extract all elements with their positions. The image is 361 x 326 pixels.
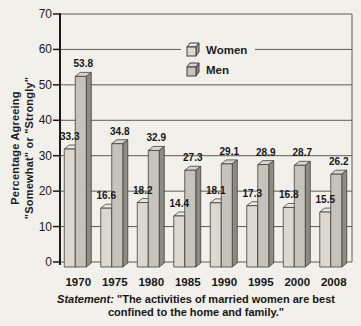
bar-women bbox=[247, 206, 258, 267]
x-category-label: 2008 bbox=[321, 276, 347, 288]
x-category-label: 1970 bbox=[65, 276, 91, 288]
chart-legend: Women Men bbox=[181, 40, 255, 79]
x-category-label: 1990 bbox=[211, 276, 237, 288]
value-label-men: 28.7 bbox=[293, 147, 312, 158]
y-tick-label: 70 bbox=[28, 7, 52, 21]
bar-women bbox=[174, 216, 185, 267]
bar-men bbox=[112, 144, 123, 267]
bar-women bbox=[137, 203, 148, 267]
value-label-men: 27.3 bbox=[183, 152, 202, 163]
bar-side-men bbox=[123, 140, 128, 267]
y-tick-label: 60 bbox=[28, 42, 52, 56]
bar-men bbox=[221, 164, 232, 267]
legend-label-women: Women bbox=[206, 44, 247, 56]
y-tick-label: 40 bbox=[28, 113, 52, 127]
y-tick-label: 0 bbox=[28, 255, 52, 269]
bar-side-men bbox=[342, 170, 347, 267]
y-axis-title-line1: Percentage Agreeing bbox=[8, 48, 22, 248]
legend-label-men: Men bbox=[206, 64, 229, 76]
statement-caption: Statement: "The activities of married wo… bbox=[40, 293, 352, 319]
value-label-women: 33.3 bbox=[60, 131, 79, 142]
value-label-men: 34.8 bbox=[110, 126, 129, 137]
y-tick-label: 30 bbox=[28, 149, 52, 163]
bar-side-men bbox=[232, 160, 237, 267]
bar-side-men bbox=[196, 166, 201, 267]
x-category-label: 1995 bbox=[248, 276, 274, 288]
bar-women bbox=[283, 207, 294, 267]
value-label-men: 29.1 bbox=[220, 146, 239, 157]
bar-men bbox=[185, 170, 196, 267]
value-label-women: 14.4 bbox=[170, 198, 189, 209]
statement-caption-label: Statement: bbox=[57, 293, 114, 305]
legend-item-women: Women bbox=[185, 42, 247, 57]
bar-women bbox=[320, 212, 331, 267]
y-tick-label: 50 bbox=[28, 78, 52, 92]
cube-icon-women bbox=[185, 42, 200, 57]
y-tick-label: 20 bbox=[28, 184, 52, 198]
bar-side-men bbox=[269, 161, 274, 267]
bar-men bbox=[294, 165, 305, 267]
bar-side-men bbox=[86, 72, 91, 267]
bar-women bbox=[210, 203, 221, 267]
x-category-label: 1980 bbox=[138, 276, 164, 288]
value-label-men: 53.8 bbox=[74, 58, 93, 69]
bar-men bbox=[75, 76, 86, 267]
bar-men bbox=[331, 174, 342, 267]
value-label-men: 28.9 bbox=[256, 147, 275, 158]
x-category-label: 1985 bbox=[175, 276, 201, 288]
value-label-women: 18.2 bbox=[133, 185, 152, 196]
bar-side-men bbox=[305, 161, 310, 267]
bar-men bbox=[148, 150, 159, 267]
x-category-label: 2000 bbox=[284, 276, 310, 288]
value-label-women: 16.6 bbox=[97, 190, 116, 201]
y-tick-label: 10 bbox=[28, 220, 52, 234]
value-label-women: 16.8 bbox=[279, 189, 298, 200]
bar-side-men bbox=[159, 146, 164, 267]
bar-chart-figure: Percentage Agreeing "Somewhat" or "Stron… bbox=[0, 0, 361, 326]
legend-item-men: Men bbox=[185, 62, 247, 77]
value-label-women: 15.5 bbox=[316, 194, 335, 205]
x-category-label: 1975 bbox=[102, 276, 128, 288]
bar-men bbox=[258, 165, 269, 267]
value-label-men: 26.2 bbox=[329, 156, 348, 167]
value-label-women: 17.3 bbox=[243, 188, 262, 199]
statement-caption-text: "The activities of married women are bes… bbox=[108, 293, 335, 318]
cube-icon-men bbox=[185, 62, 200, 77]
bar-women bbox=[101, 208, 112, 267]
value-label-women: 18.1 bbox=[206, 185, 225, 196]
value-label-men: 32.9 bbox=[147, 132, 166, 143]
bar-women bbox=[64, 149, 75, 267]
